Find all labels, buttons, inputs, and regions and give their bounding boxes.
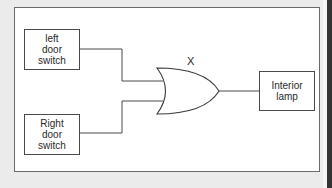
left-door-switch-box: left door switch [24,29,80,70]
diagram-stage: X left door switch Right door switch Int… [0,0,332,188]
right-switch-line-2: door [38,129,66,140]
gate-label: X [187,55,194,67]
left-switch-line-2: door [38,44,66,55]
lamp-line-2: lamp [271,91,302,102]
right-switch-line-3: switch [38,140,66,151]
interior-lamp-box: Interior lamp [259,71,315,111]
left-switch-line-1: left [38,33,66,44]
right-door-switch-box: Right door switch [24,114,80,155]
lamp-line-1: Interior [271,80,302,91]
left-switch-line-3: switch [38,55,66,66]
right-switch-line-1: Right [38,118,66,129]
page-edge-shadow [327,0,332,188]
